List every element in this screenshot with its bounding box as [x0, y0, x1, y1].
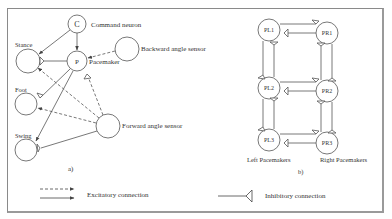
foot-label: Foot: [15, 86, 27, 93]
pl2-label: PL2: [264, 85, 274, 91]
swing-node: [15, 139, 37, 161]
command-glyph: C: [74, 20, 79, 29]
inhibitory-forward-p-dashed: [87, 74, 103, 115]
forward-angle-sensor-label: Forward angle sensor: [122, 122, 183, 130]
command-neuron-label: Command neuron: [91, 21, 142, 29]
inhibitory-terminal-icon: [40, 57, 44, 65]
pr2-label: PR2: [322, 88, 332, 94]
excitatory-backward-p: [88, 51, 115, 58]
inhibitory-forward-swing: [41, 131, 97, 148]
right-pacemakers-label: Right Pacemakers: [320, 156, 368, 163]
pr1-label: PR1: [322, 30, 332, 36]
stance-label: Stance: [15, 41, 32, 48]
pacemaker-glyph: P: [75, 58, 79, 66]
inhibitory-terminal-icon: [37, 144, 40, 152]
swing-label: Swing: [15, 132, 32, 139]
inhibitory-terminal-icon: [246, 190, 252, 202]
forward-angle-sensor-node: [96, 114, 120, 138]
pl3-label: PL3: [264, 137, 274, 143]
panel-a-caption: a): [68, 165, 74, 173]
excitatory-c-stance: [39, 30, 70, 54]
panel-b-caption: b): [298, 168, 303, 176]
stance-node: [16, 49, 40, 73]
left-pacemakers-label: Left Pacemakers: [247, 156, 291, 163]
foot-node: [15, 93, 37, 115]
backward-angle-sensor-label: Backward angle sensor: [141, 45, 207, 53]
pr3-label: PR3: [322, 140, 332, 146]
inhibitory-terminal-icon: [37, 93, 43, 98]
pacemaker-label: Pacemaker: [89, 58, 120, 66]
inhibitory-terminal-icon: [84, 74, 91, 79]
legend-excitatory-label: Excitatory connection: [87, 191, 149, 199]
pl1-label: PL1: [264, 27, 274, 33]
legend-inhibitory-label: Inhibitory connection: [265, 192, 326, 200]
neural-network-diagram: C P Command neuron Pacemaker Stance Foot…: [0, 0, 392, 219]
